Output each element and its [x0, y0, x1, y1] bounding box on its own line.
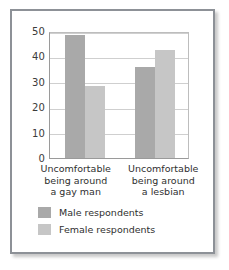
- y-tick-label-30: 30: [15, 78, 45, 88]
- category-label-line: a lesbian: [120, 186, 208, 198]
- bar-male-respondents-group-0: [65, 35, 85, 158]
- legend-label: Male respondents: [59, 207, 143, 218]
- legend-swatch-icon: [38, 224, 51, 235]
- bar-female-respondents-group-1: [155, 50, 175, 158]
- bar-male-respondents-group-1: [135, 67, 155, 158]
- y-tick-label-20: 20: [15, 103, 45, 113]
- legend-item-male-respondents[interactable]: Male respondents: [38, 207, 198, 218]
- legend-swatch-icon: [38, 207, 51, 218]
- chart-plot-wrapper: 01020304050 Uncomfortablebeing arounda g…: [12, 11, 217, 256]
- gridline-50: [50, 33, 188, 34]
- y-tick-label-10: 10: [15, 129, 45, 139]
- legend-label: Female respondents: [59, 224, 155, 235]
- x-axis-category-labels: Uncomfortablebeing arounda gay manUncomf…: [32, 163, 207, 198]
- plot-area: [49, 32, 189, 159]
- category-label-line: a gay man: [32, 186, 120, 198]
- y-tick-label-40: 40: [15, 52, 45, 62]
- y-tick-label-50: 50: [15, 27, 45, 37]
- chart-figure-frame: 01020304050 Uncomfortablebeing arounda g…: [10, 9, 215, 254]
- category-label-line: Uncomfortable: [32, 163, 120, 175]
- category-label-0: Uncomfortablebeing arounda gay man: [32, 163, 120, 198]
- category-label-1: Uncomfortablebeing arounda lesbian: [120, 163, 208, 198]
- category-label-line: being around: [120, 175, 208, 187]
- bar-female-respondents-group-0: [85, 86, 105, 158]
- legend-item-female-respondents[interactable]: Female respondents: [38, 224, 198, 235]
- category-label-line: Uncomfortable: [120, 163, 208, 175]
- y-axis: 01020304050: [12, 32, 45, 159]
- category-label-line: being around: [32, 175, 120, 187]
- chart-legend: Male respondentsFemale respondents: [38, 207, 198, 241]
